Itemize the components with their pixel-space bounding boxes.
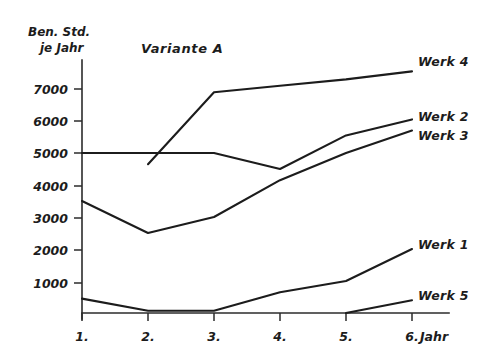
series-label-werk-5: Werk 5 — [418, 288, 469, 303]
y-tick-label-6000: 6000 — [33, 114, 68, 129]
chart-title: Variante A — [141, 41, 223, 56]
y-axis-ticks — [74, 89, 82, 283]
series-line-werk-2 — [82, 119, 412, 169]
y-tick-label-1000: 1000 — [33, 276, 68, 291]
series-label-werk-4: Werk 4 — [418, 54, 469, 69]
line-chart: Ben. Std. je Jahr Variante A 7000 6000 5… — [0, 0, 486, 362]
y-tick-label-5000: 5000 — [33, 146, 68, 161]
series-line-werk-4 — [148, 71, 412, 164]
x-tick-label-3: 3. — [207, 329, 220, 344]
y-axis-label-line2: je Jahr — [38, 41, 85, 55]
series-group — [82, 71, 412, 313]
x-tick-label-5: 5. — [339, 329, 352, 344]
series-label-werk-1: Werk 1 — [418, 237, 469, 252]
y-tick-label-3000: 3000 — [33, 211, 68, 226]
x-axis-label: Jahr — [417, 329, 449, 344]
y-tick-label-2000: 2000 — [33, 243, 68, 258]
chart-container: Ben. Std. je Jahr Variante A 7000 6000 5… — [0, 0, 486, 362]
series-line-werk-5 — [346, 300, 412, 313]
x-tick-label-6: 6. — [405, 329, 418, 344]
x-tick-label-2: 2. — [141, 329, 154, 344]
series-label-werk-3: Werk 3 — [418, 128, 469, 143]
legend-inline: Werk 4 Werk 2 Werk 3 Werk 1 Werk 5 — [418, 54, 469, 303]
y-tick-label-4000: 4000 — [32, 179, 68, 194]
series-line-werk-3 — [82, 131, 412, 233]
series-label-werk-2: Werk 2 — [418, 109, 469, 124]
y-axis-label-line1: Ben. Std. — [28, 25, 90, 39]
x-tick-label-1: 1. — [75, 329, 88, 344]
x-axis-ticks — [82, 313, 412, 321]
y-tick-label-7000: 7000 — [33, 82, 68, 97]
x-tick-label-4: 4. — [272, 329, 286, 344]
series-line-werk-1 — [82, 249, 412, 311]
